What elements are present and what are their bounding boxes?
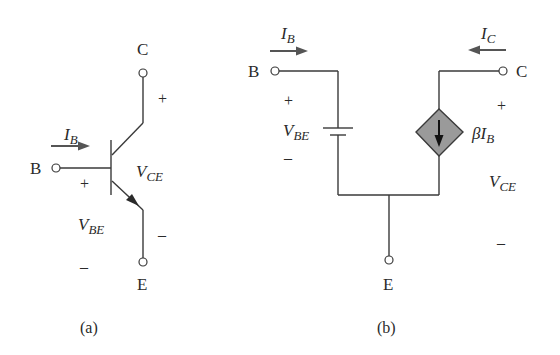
arrow-right-icon [296,47,308,56]
bjt-model-diagram: C B E IB + VCE – + VBE – (a) [0,0,560,355]
caption-a: (a) [80,319,98,337]
vce-plus-b: + [497,97,506,114]
emitter-terminal-a [139,258,147,266]
dependent-source-label: βIB [471,124,494,146]
vbe-plus-b: + [284,92,293,109]
emitter-terminal-b [385,256,393,264]
vbe-label-a: VBE [78,215,104,237]
collector-terminal-a [139,69,147,77]
base-terminal-b [271,67,279,75]
vce-label-b: VCE [489,172,516,194]
svg-text:IC: IC [480,24,496,46]
vbe-minus-b: – [283,149,293,166]
collector-terminal-b [499,67,507,75]
emitter-label-b: E [383,275,393,294]
base-terminal-a [52,164,60,172]
vbe-label-b: VBE [283,121,309,143]
vbe-minus-a: – [79,258,89,275]
vce-plus-a: + [158,90,167,107]
collector-label-a: C [137,40,148,59]
vce-minus-b: – [496,234,506,251]
base-label-a: B [30,159,41,178]
figure-b-dc-model: B E C βIB IB IC [248,24,527,337]
svg-text:IB: IB [280,24,295,46]
base-current-a: IB [51,125,90,151]
emitter-label-a: E [137,275,147,294]
collector-diagonal-a [112,123,143,155]
figure-a-transistor-symbol: C B E IB + VCE – + VBE – (a) [30,40,167,337]
base-label-b: B [248,62,259,81]
vce-label-a: VCE [136,162,163,184]
arrow-right-icon [78,142,90,151]
arrow-left-icon [468,46,480,55]
vbe-plus-a: + [80,175,89,192]
collector-label-b: C [516,62,527,81]
collector-current-b: IC [468,24,506,55]
svg-text:IB: IB [63,125,78,147]
base-current-b: IB [270,24,308,56]
caption-b: (b) [377,319,396,337]
vce-minus-a: – [157,226,167,243]
